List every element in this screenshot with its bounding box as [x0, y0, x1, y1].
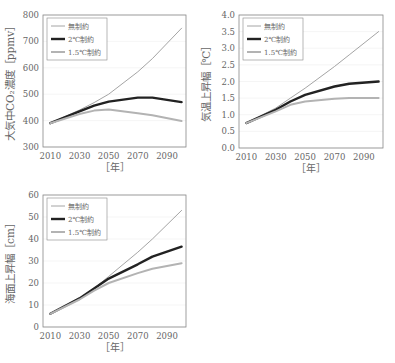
y-tick-label: 1.0: [221, 110, 235, 120]
y-tick-label: 500: [23, 89, 39, 99]
legend-label: 無制約: [68, 202, 89, 211]
y-tick-label: 800: [23, 10, 39, 20]
x-tick-label: 2010: [39, 331, 61, 341]
x-tick-label: 2070: [324, 152, 346, 162]
chart-svg: 30040050060070080020102030205020702090［年…: [0, 0, 195, 175]
x-tick-label: 2070: [127, 151, 149, 161]
legend-label: 2℃制約: [68, 215, 94, 224]
chart-svg: 010203040506020102030205020702090［年］海面上昇…: [0, 180, 200, 363]
legend-label: 無制約: [68, 22, 89, 31]
y-tick-label: 600: [23, 63, 39, 73]
x-tick-label: 2010: [236, 152, 258, 162]
y-tick-label: 0.5: [221, 126, 235, 136]
chart-co2-concentration: 30040050060070080020102030205020702090［年…: [0, 0, 195, 175]
x-tick-label: 2050: [98, 331, 120, 341]
y-axis-label: 海面上昇幅［cm］: [4, 218, 16, 304]
y-axis-label: 気温上昇幅［℃］: [200, 41, 212, 123]
y-tick-label: 20: [28, 278, 39, 288]
x-axis-label: ［年］: [296, 162, 326, 174]
x-tick-label: 2010: [39, 151, 61, 161]
legend-label: 2℃制約: [68, 35, 94, 44]
legend: 無制約2℃制約1.5℃制約: [47, 18, 107, 60]
series-line: [246, 82, 378, 124]
x-tick-label: 2090: [156, 151, 178, 161]
x-tick-label: 2050: [98, 151, 120, 161]
y-tick-label: 0.0: [221, 143, 235, 153]
y-tick-label: 1.5: [221, 93, 235, 103]
y-tick-label: 3.5: [221, 27, 235, 37]
x-tick-label: 2030: [69, 151, 91, 161]
x-axis-label: ［年］: [100, 341, 130, 353]
x-axis-label: ［年］: [100, 161, 130, 173]
chart-sea-level-rise: 010203040506020102030205020702090［年］海面上昇…: [0, 180, 200, 363]
x-tick-label: 2090: [156, 331, 178, 341]
y-tick-label: 700: [23, 36, 39, 46]
legend-label: 1.5℃制約: [68, 228, 101, 237]
legend: 無制約2℃制約1.5℃制約: [47, 198, 107, 240]
y-tick-label: 10: [28, 300, 39, 310]
y-tick-label: 40: [28, 234, 39, 244]
y-axis-label: 大気中CO₂濃度［ppmv］: [4, 21, 16, 141]
x-tick-label: 2030: [69, 331, 91, 341]
x-tick-label: 2050: [294, 152, 316, 162]
y-tick-label: 2.5: [221, 60, 235, 70]
legend-label: 無制約: [264, 22, 285, 31]
legend: 無制約2℃制約1.5℃制約: [243, 18, 303, 60]
series-line: [50, 110, 181, 124]
x-tick-label: 2090: [353, 152, 375, 162]
y-tick-label: 4.0: [221, 10, 235, 20]
y-tick-label: 60: [28, 190, 39, 200]
series-line: [246, 98, 378, 123]
y-tick-label: 3.0: [221, 43, 235, 53]
y-tick-label: 30: [28, 256, 39, 266]
y-tick-label: 50: [28, 212, 39, 222]
legend-label: 2℃制約: [264, 35, 290, 44]
y-tick-label: 400: [23, 116, 39, 126]
y-tick-label: 0: [34, 322, 39, 332]
x-tick-label: 2070: [127, 331, 149, 341]
y-tick-label: 300: [23, 142, 39, 152]
legend-label: 1.5℃制約: [264, 48, 297, 57]
chart-temperature-rise: 0.00.51.01.52.02.53.03.54.02010203020502…: [196, 0, 395, 175]
legend-label: 1.5℃制約: [68, 48, 101, 57]
chart-svg: 0.00.51.01.52.02.53.03.54.02010203020502…: [196, 0, 395, 175]
x-tick-label: 2030: [265, 152, 287, 162]
y-tick-label: 2.0: [221, 77, 235, 87]
